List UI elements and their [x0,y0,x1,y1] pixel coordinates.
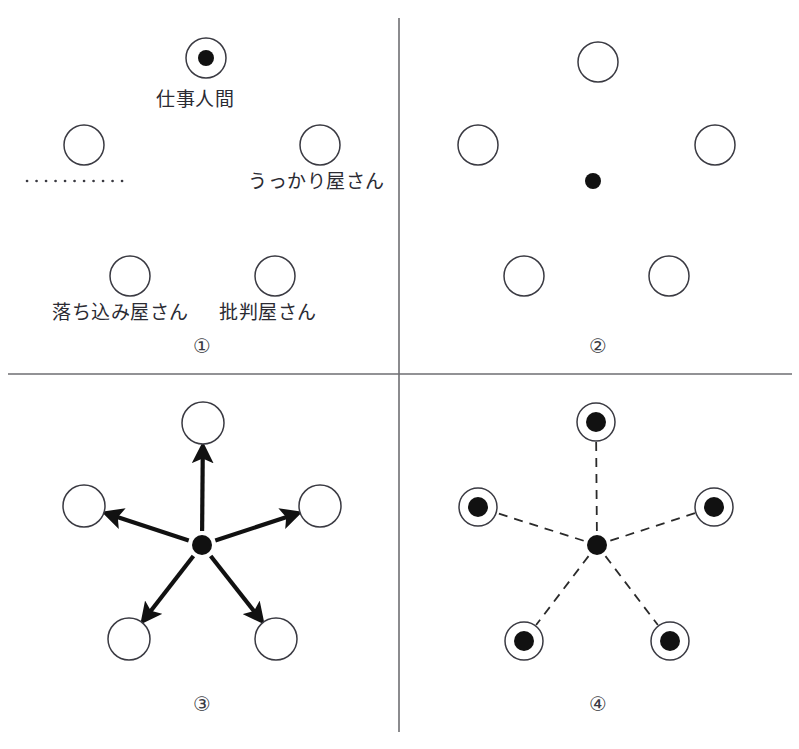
node-dot-upper-left [468,497,488,517]
node-top [578,42,618,82]
node-ring-upper-right [695,125,735,165]
node-ring-upper-left [64,125,104,165]
node-lower-right [255,618,297,660]
node-top [186,38,226,78]
arrow-connector-lower-right [211,556,257,615]
figure-canvas [0,0,799,749]
node-dot-lower-left [514,631,534,651]
arrow-connector-upper-right [215,516,290,541]
dashed-connector-top [596,442,597,531]
panel-label: 批判屋さん [219,303,317,322]
panel-number: ① [193,336,211,356]
node-upper-right [695,125,735,165]
node-dot-top [198,50,214,66]
node-dot-upper-right [704,497,724,517]
node-ring-top [578,42,618,82]
node-ring-lower-right [255,618,297,660]
panel-label: うっかり屋さん [248,172,385,191]
arrow-connector-top [202,454,203,531]
node-upper-right [695,488,733,526]
node-ring-lower-left [110,256,150,296]
node-lower-right [649,256,689,296]
node-ring-lower-right [255,256,295,296]
node-ring-top [182,402,224,444]
node-upper-right [299,485,341,527]
panel-number: ③ [193,694,211,714]
dashed-connector-lower-left [536,556,588,625]
node-ring-lower-left [504,256,544,296]
node-lower-left [504,256,544,296]
node-top [577,403,615,441]
panel-label: 落ち込み屋さん [52,303,189,322]
node-ring-upper-left [458,125,498,165]
dashed-connector-upper-right [610,513,695,540]
node-upper-left [458,125,498,165]
node-lower-left [505,622,543,660]
arrow-connector-upper-left [113,516,188,541]
panel-number: ② [589,336,607,356]
node-lower-left [110,256,150,296]
node-upper-left [459,488,497,526]
node-ring-upper-right [300,125,340,165]
node-ring-upper-left [63,485,105,527]
center-self-dot [585,173,601,189]
node-dot-top [586,412,606,432]
node-ring-upper-right [299,485,341,527]
node-top [182,402,224,444]
node-lower-right [255,256,295,296]
center-self-dot [587,535,607,555]
node-lower-right [651,622,689,660]
dashed-connector-upper-left [497,513,584,541]
node-upper-right [300,125,340,165]
panel-number: ④ [589,694,607,714]
center-self-dot [192,535,212,555]
node-ring-lower-left [108,618,150,660]
dashed-connector-lower-right [605,556,657,625]
node-dot-lower-right [660,631,680,651]
node-lower-left [108,618,150,660]
node-upper-left [64,125,104,165]
panel-label: 仕事人間 [156,90,234,109]
node-ring-lower-right [649,256,689,296]
node-upper-left [63,485,105,527]
four-panel-figure: 仕事人間うっかり屋さん落ち込み屋さん批判屋さん①②③④ [0,0,799,749]
arrow-connector-lower-left [148,556,193,614]
